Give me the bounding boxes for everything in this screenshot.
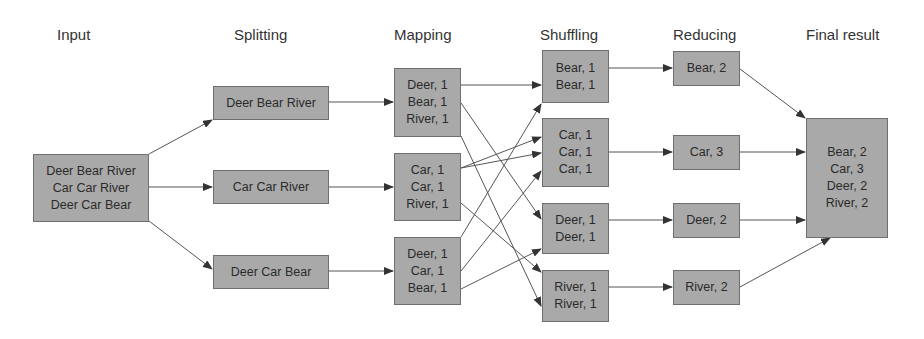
split-label: Deer Car Bear [231,264,312,281]
map-line: Deer, 1 [407,77,447,94]
split-box-2: Car Car River [213,170,329,204]
final-line: Bear, 2 [827,144,867,161]
shuffle-line: Car, 1 [559,161,592,178]
shuffle-box-car: Car, 1 Car, 1 Car, 1 [542,118,609,187]
split-box-3: Deer Car Bear [213,255,329,289]
shuffle-box-deer: Deer, 1 Deer, 1 [542,203,609,254]
shuffle-line: Bear, 1 [556,60,596,77]
reduce-box-deer: Deer, 2 [673,203,740,238]
final-line: Deer, 2 [827,178,867,195]
final-line: Car, 3 [830,161,863,178]
map-line: Bear, 1 [408,94,448,111]
reduce-label: River, 2 [685,279,727,296]
reduce-box-car: Car, 3 [673,135,740,170]
map-line: Car, 1 [411,179,444,196]
split-box-1: Deer Bear River [213,86,329,120]
map-line: Car, 1 [411,263,444,280]
map-line: Bear, 1 [408,280,448,297]
reduce-label: Deer, 2 [686,212,726,229]
reduce-label: Bear, 2 [687,60,727,77]
shuffle-line: Deer, 1 [555,229,595,246]
shuffle-line: Car, 1 [559,144,592,161]
map-box-2: Car, 1 Car, 1 River, 1 [394,153,461,221]
map-line: Car, 1 [411,162,444,179]
split-label: Deer Bear River [226,95,316,112]
input-line: Deer Car Bear [51,197,132,214]
shuffle-box-bear: Bear, 1 Bear, 1 [542,50,609,103]
input-box: Deer Bear River Car Car River Deer Car B… [33,154,149,222]
reduce-box-bear: Bear, 2 [673,51,740,86]
shuffle-line: Bear, 1 [556,77,596,94]
shuffle-line: River, 1 [554,296,596,313]
reduce-box-river: River, 2 [673,270,740,305]
map-line: River, 1 [406,196,448,213]
map-line: Deer, 1 [407,246,447,263]
input-line: Car Car River [53,180,129,197]
split-label: Car Car River [233,179,309,196]
shuffle-line: River, 1 [554,279,596,296]
shuffle-box-river: River, 1 River, 1 [542,270,609,322]
input-line: Deer Bear River [46,163,136,180]
final-result-box: Bear, 2 Car, 3 Deer, 2 River, 2 [806,118,888,238]
shuffle-line: Deer, 1 [555,212,595,229]
reduce-label: Car, 3 [690,144,723,161]
map-line: River, 1 [406,111,448,128]
map-box-3: Deer, 1 Car, 1 Bear, 1 [394,237,461,305]
map-box-1: Deer, 1 Bear, 1 River, 1 [394,68,461,137]
final-line: River, 2 [826,195,868,212]
shuffle-line: Car, 1 [559,127,592,144]
